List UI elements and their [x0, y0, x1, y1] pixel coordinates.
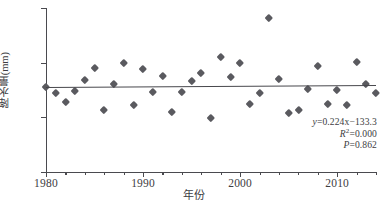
- precipitation-scatter-chart: 0200400600 1980199020002010 降水量(mm) 年份 y…: [0, 0, 387, 205]
- x-tick-minor: [162, 172, 163, 175]
- equation-expression: =0.224x−133.3: [317, 116, 377, 127]
- y-axis-title: 降水量(mm): [0, 52, 13, 108]
- x-tick-minor: [298, 172, 299, 175]
- x-tick-label: 2000: [216, 177, 264, 189]
- regression-equation: y=0.224x−133.3: [313, 116, 377, 128]
- y-tick: [41, 8, 46, 9]
- y-tick: [41, 63, 46, 64]
- x-tick-label: 1980: [22, 177, 70, 189]
- x-tick-minor: [201, 172, 202, 175]
- x-tick-minor: [65, 172, 66, 175]
- x-tick-minor: [376, 172, 377, 175]
- r-squared-stat: R2=0.000: [313, 128, 377, 140]
- r-squared-value: =0.000: [349, 128, 377, 139]
- x-axis-title: 年份: [0, 189, 387, 201]
- x-tick-minor: [318, 172, 319, 175]
- regression-stats-annotation: y=0.224x−133.3 R2=0.000 P=0.862: [313, 116, 377, 151]
- x-tick-minor: [124, 172, 125, 175]
- x-tick-minor: [260, 172, 261, 175]
- x-tick-label: 1990: [119, 177, 167, 189]
- x-tick-minor: [357, 172, 358, 175]
- p-value-number: =0.862: [349, 139, 377, 150]
- y-tick: [41, 117, 46, 118]
- x-tick-label: 2010: [313, 177, 361, 189]
- x-axis-line: [46, 172, 377, 173]
- p-value-stat: P=0.862: [313, 139, 377, 151]
- x-tick-minor: [221, 172, 222, 175]
- x-tick-minor: [104, 172, 105, 175]
- x-tick-minor: [85, 172, 86, 175]
- x-tick-minor: [182, 172, 183, 175]
- x-tick-minor: [279, 172, 280, 175]
